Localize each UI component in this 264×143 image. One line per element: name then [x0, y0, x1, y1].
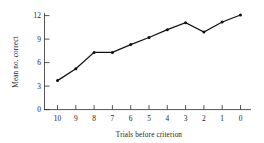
- data-point: [56, 79, 59, 82]
- x-tick-label: 6: [129, 114, 133, 123]
- data-point: [129, 43, 132, 46]
- x-axis-title: Trials before criterion: [116, 131, 183, 139]
- x-axis-ticks: [58, 105, 241, 110]
- y-axis-tick-labels: 0 3 6 9 12: [34, 11, 42, 114]
- data-point: [184, 21, 187, 24]
- data-markers: [56, 14, 242, 83]
- y-axis-ticks: [45, 16, 50, 110]
- data-point: [221, 21, 224, 24]
- x-axis-tick-labels: 10 9 8 7 6 5 4 3 2 1 0: [54, 114, 243, 123]
- data-point: [166, 28, 169, 31]
- x-tick-label: 1: [220, 114, 224, 123]
- data-point: [93, 51, 96, 54]
- y-tick-label: 3: [37, 82, 41, 91]
- y-tick-label: 9: [37, 35, 41, 44]
- y-tick-label: 12: [34, 11, 42, 20]
- x-tick-label: 3: [184, 114, 188, 123]
- y-axis-title: Mean no. correct: [12, 36, 20, 87]
- line-chart-plot: 0 3 6 9 12 10 9 8 7 6 5 4: [0, 0, 264, 143]
- x-tick-label: 0: [239, 114, 243, 123]
- x-tick-label: 9: [74, 114, 78, 123]
- chart-figure: 0 3 6 9 12 10 9 8 7 6 5 4: [0, 0, 264, 143]
- x-tick-label: 10: [54, 114, 62, 123]
- x-tick-label: 2: [202, 114, 206, 123]
- x-tick-label: 5: [147, 114, 151, 123]
- data-point: [202, 31, 205, 34]
- data-point: [239, 14, 242, 17]
- y-tick-label: 0: [37, 105, 41, 114]
- x-tick-label: 7: [111, 114, 115, 123]
- x-tick-label: 4: [165, 114, 169, 123]
- data-series-line: [58, 15, 241, 81]
- x-tick-label: 8: [92, 114, 96, 123]
- data-point: [74, 67, 77, 70]
- y-tick-label: 6: [37, 58, 41, 67]
- data-point: [111, 51, 114, 54]
- data-point: [148, 36, 151, 39]
